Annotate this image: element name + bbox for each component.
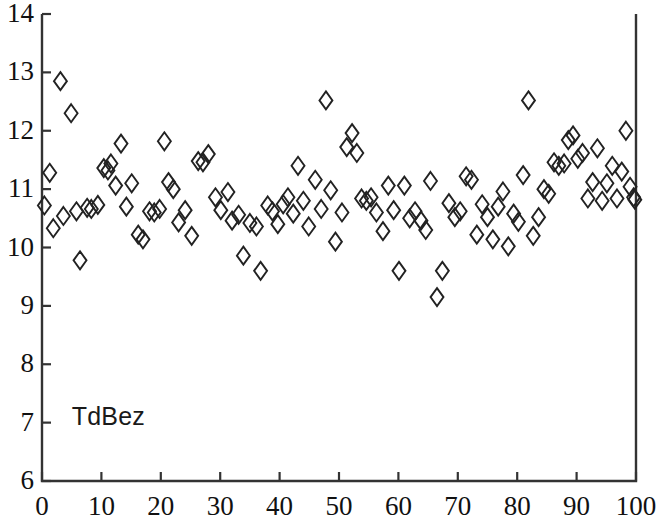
data-point-marker [324, 181, 337, 199]
data-point-marker [65, 104, 78, 122]
data-point-marker [309, 171, 322, 189]
data-point-marker [237, 247, 250, 265]
data-point-marker [591, 139, 604, 157]
data-point-marker [162, 173, 175, 191]
data-point-marker [436, 262, 449, 280]
data-point-marker [486, 230, 499, 248]
data-point-marker [243, 214, 256, 232]
data-point-marker [376, 222, 389, 240]
data-point-marker [393, 262, 406, 280]
data-point-marker [382, 177, 395, 195]
data-point-marker [470, 226, 483, 244]
data-point-marker [517, 166, 530, 184]
data-point-marker [57, 207, 70, 225]
data-point-marker [335, 203, 348, 221]
scatter-plot [0, 0, 663, 529]
data-point-marker [576, 144, 589, 162]
data-point-marker [261, 196, 274, 214]
data-point-marker [250, 217, 263, 235]
data-point-marker [532, 208, 545, 226]
y-tick-label: 8 [21, 350, 35, 377]
data-point-marker [167, 180, 180, 198]
data-point-marker [281, 188, 294, 206]
data-point-marker [125, 174, 138, 192]
x-tick-label: 100 [596, 493, 663, 520]
y-tick-label: 9 [21, 292, 35, 319]
data-point-marker [43, 164, 56, 182]
data-point-marker [70, 202, 83, 220]
data-point-marker [302, 217, 315, 235]
data-point-marker [502, 237, 515, 255]
data-point-marker [329, 233, 342, 251]
data-point-marker [221, 183, 234, 201]
data-point-marker [185, 227, 198, 245]
y-tick-label: 12 [7, 117, 34, 144]
y-tick-label: 14 [7, 0, 34, 27]
data-point-marker [292, 157, 305, 175]
y-tick-label: 10 [7, 234, 34, 261]
data-point-marker [47, 219, 60, 237]
data-point-marker [287, 205, 300, 223]
data-point-marker [319, 91, 332, 109]
data-point-marker [600, 174, 613, 192]
data-points [38, 72, 641, 306]
y-tick-label: 7 [21, 409, 35, 436]
data-point-marker [424, 172, 437, 190]
data-point-marker [315, 200, 328, 218]
data-point-marker [158, 132, 171, 150]
data-point-marker [120, 198, 133, 216]
data-point-marker [596, 192, 609, 210]
data-point-marker [606, 157, 619, 175]
data-point-marker [38, 196, 51, 214]
data-point-marker [611, 189, 624, 207]
y-tick-label: 13 [7, 58, 34, 85]
data-point-marker [54, 72, 67, 90]
data-point-marker [91, 196, 104, 214]
data-point-marker [109, 177, 122, 195]
y-tick-label: 11 [8, 175, 34, 202]
data-point-marker [571, 150, 584, 168]
data-point-marker [431, 288, 444, 306]
data-point-marker [115, 135, 128, 153]
data-point-marker [254, 262, 267, 280]
data-point-marker [74, 251, 87, 269]
data-point-marker [522, 91, 535, 109]
chart-root: TdBez 6789101112131401020304050607080901… [0, 0, 663, 529]
data-point-marker [387, 201, 400, 219]
data-point-marker [398, 177, 411, 195]
data-point-marker [297, 192, 310, 210]
data-point-marker [619, 122, 632, 140]
data-point-marker [527, 227, 540, 245]
y-tick-label: 6 [21, 467, 35, 494]
series-label: TdBez [72, 402, 145, 431]
data-point-marker [615, 163, 628, 181]
